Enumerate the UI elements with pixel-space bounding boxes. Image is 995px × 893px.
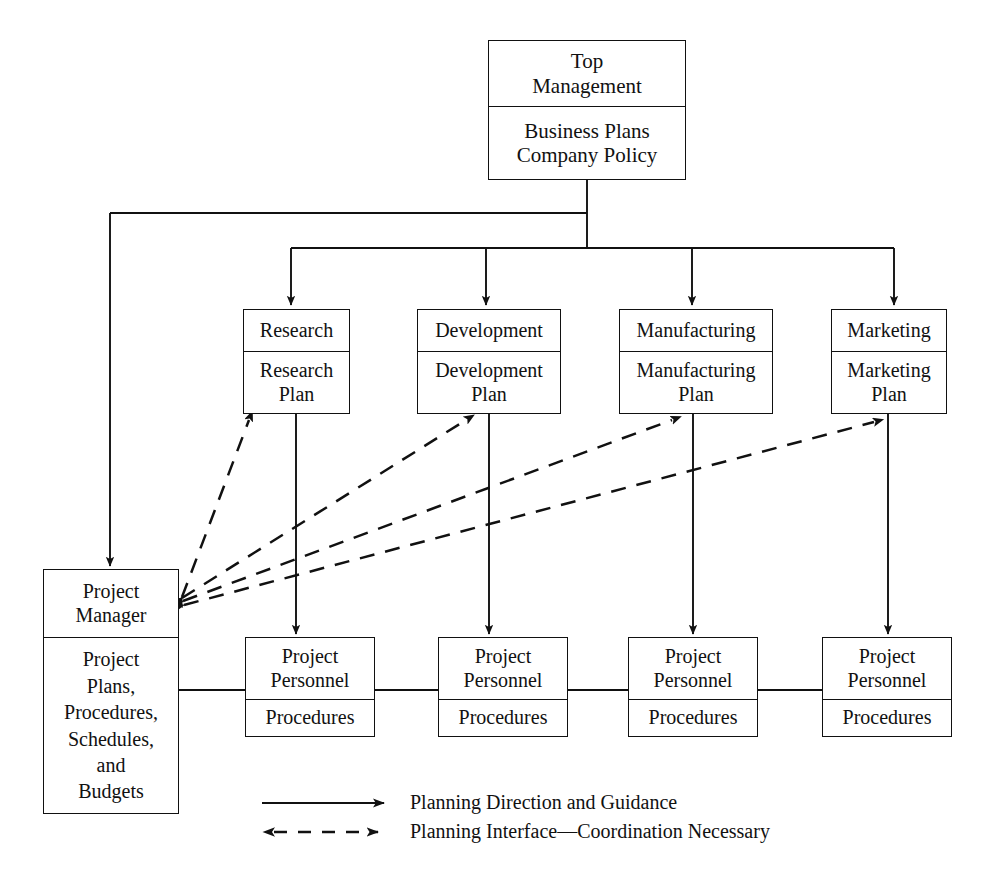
project-personnel-1-detail: Procedures (246, 700, 374, 736)
node-project-personnel-1[interactable]: Project Personnel Procedures (245, 637, 375, 737)
project-personnel-4-detail: Procedures (823, 700, 951, 736)
manufacturing-title: Manufacturing (620, 310, 772, 352)
solid-arrow-icon (258, 791, 398, 815)
project-manager-detail: Project Plans, Procedures, Schedules, an… (44, 638, 178, 813)
manufacturing-detail: Manufacturing Plan (620, 352, 772, 413)
node-project-personnel-2[interactable]: Project Personnel Procedures (438, 637, 568, 737)
interface-project-manager-research (182, 420, 249, 597)
marketing-title: Marketing (832, 310, 946, 352)
node-marketing[interactable]: Marketing Marketing Plan (831, 309, 947, 414)
project-personnel-2-title: Project Personnel (439, 638, 567, 700)
research-title: Research (244, 310, 349, 352)
interface-project-manager-development (182, 420, 466, 598)
legend-row-direction: Planning Direction and Guidance (258, 788, 958, 817)
project-personnel-1-title: Project Personnel (246, 638, 374, 700)
interface-project-manager-marketing (184, 422, 874, 605)
project-personnel-4-title: Project Personnel (823, 638, 951, 700)
node-project-personnel-4[interactable]: Project Personnel Procedures (822, 637, 952, 737)
legend-label-direction: Planning Direction and Guidance (398, 791, 677, 814)
node-project-manager[interactable]: Project Manager Project Plans, Procedure… (43, 569, 179, 814)
top-management-detail: Business Plans Company Policy (489, 107, 685, 179)
legend-label-interface: Planning Interface—Coordination Necessar… (398, 820, 770, 843)
research-detail: Research Plan (244, 352, 349, 413)
development-title: Development (418, 310, 560, 352)
legend-row-interface: Planning Interface—Coordination Necessar… (258, 817, 958, 846)
node-research[interactable]: Research Research Plan (243, 309, 350, 414)
node-manufacturing[interactable]: Manufacturing Manufacturing Plan (619, 309, 773, 414)
project-personnel-3-title: Project Personnel (629, 638, 757, 700)
dashed-double-arrow-icon (258, 820, 398, 844)
interface-project-manager-manufacturing (183, 420, 672, 601)
project-personnel-2-detail: Procedures (439, 700, 567, 736)
node-top-management[interactable]: Top Management Business Plans Company Po… (488, 40, 686, 180)
node-project-personnel-3[interactable]: Project Personnel Procedures (628, 637, 758, 737)
project-manager-title: Project Manager (44, 570, 178, 638)
marketing-detail: Marketing Plan (832, 352, 946, 413)
node-development[interactable]: Development Development Plan (417, 309, 561, 414)
development-detail: Development Plan (418, 352, 560, 413)
org-chart-diagram: Top Management Business Plans Company Po… (0, 0, 995, 893)
top-management-title: Top Management (489, 41, 685, 107)
legend: Planning Direction and Guidance Plan (258, 788, 958, 846)
project-personnel-3-detail: Procedures (629, 700, 757, 736)
